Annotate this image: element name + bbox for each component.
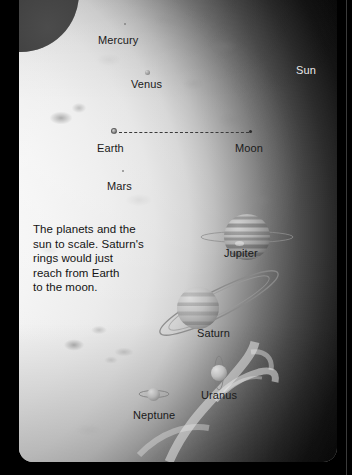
- scale-comparison-figure: Sun Mercury Venus Earth Moon Mars The pl…: [0, 0, 352, 475]
- uranus-body: [211, 365, 227, 381]
- mercury-body: [124, 23, 126, 25]
- label-sun: Sun: [296, 64, 316, 76]
- earth-body: [111, 128, 117, 134]
- label-uranus: Uranus: [201, 389, 237, 401]
- label-mars: Mars: [107, 180, 132, 192]
- label-moon: Moon: [235, 142, 263, 154]
- figure-caption: The planets and the sun to scale. Saturn…: [33, 222, 193, 295]
- moon-body: [249, 130, 252, 133]
- label-mercury: Mercury: [98, 34, 138, 46]
- right-edge-rule: [346, 0, 347, 475]
- mars-body: [122, 170, 124, 172]
- label-jupiter: Jupiter: [224, 247, 258, 259]
- label-venus: Venus: [131, 78, 162, 90]
- neptune-body: [147, 388, 160, 401]
- label-saturn: Saturn: [197, 327, 230, 339]
- label-neptune: Neptune: [133, 409, 175, 421]
- saturn-body: [177, 287, 219, 329]
- sun-photograph-plate: Sun Mercury Venus Earth Moon Mars The pl…: [19, 0, 337, 462]
- venus-body: [145, 70, 150, 75]
- earth-moon-distance-line: [119, 132, 249, 133]
- label-earth: Earth: [97, 142, 124, 154]
